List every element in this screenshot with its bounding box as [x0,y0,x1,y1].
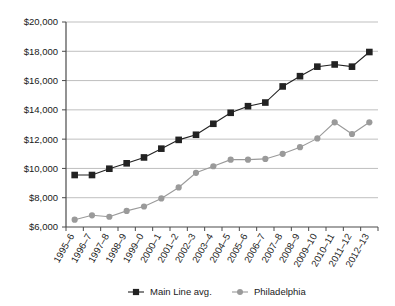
data-point-marker [210,163,216,169]
data-point-marker [193,170,199,176]
data-point-marker [72,217,78,223]
data-point-marker [297,144,303,150]
legend-marker [237,289,243,295]
data-point-marker [227,109,234,116]
y-axis-tick-label: $12,000 [24,134,58,145]
y-axis-tick-label: $14,000 [24,104,58,115]
data-point-marker [193,131,200,138]
legend-item-main-line-avg[interactable]: Main Line avg. [128,286,212,297]
data-point-marker [141,203,147,209]
legend-marker [133,289,139,295]
data-point-marker [314,63,321,70]
data-point-marker [71,172,78,179]
data-point-marker [176,184,182,190]
plot-area [66,22,378,227]
data-point-marker [245,103,252,110]
y-axis-tick-labels: $6,000$8,000$10,000$12,000$14,000$16,000… [24,16,58,232]
chart-container: $6,000$8,000$10,000$12,000$14,000$16,000… [0,0,395,306]
data-point-marker [124,208,130,214]
legend-item-philadelphia[interactable]: Philadelphia [232,286,306,297]
data-point-marker [366,119,372,125]
data-point-marker [158,145,165,152]
data-point-marker [332,119,338,125]
data-point-marker [89,212,95,218]
line-chart: $6,000$8,000$10,000$12,000$14,000$16,000… [0,0,395,306]
data-point-marker [331,61,338,68]
data-point-marker [262,156,268,162]
y-axis-tick-label: $16,000 [24,75,58,86]
y-axis-tick-label: $18,000 [24,46,58,57]
x-axis-ticks [66,227,378,231]
data-point-marker [228,157,234,163]
data-point-marker [106,214,112,220]
data-point-marker [349,131,355,137]
y-axis-tick-label: $20,000 [24,16,58,27]
data-point-marker [141,154,148,161]
data-point-marker [89,172,96,179]
data-point-marker [366,49,373,56]
data-point-marker [245,157,251,163]
data-point-marker [158,195,164,201]
y-axis-tick-label: $10,000 [24,163,58,174]
data-point-marker [262,99,269,106]
data-point-marker [210,120,217,127]
y-axis-tick-label: $6,000 [29,221,58,232]
data-point-marker [123,160,130,167]
x-axis-tick-labels: 1995–61996–71997–81998–91999–02000–12001… [51,232,371,270]
data-point-marker [279,83,286,90]
data-point-marker [175,137,182,144]
data-point-marker [106,165,113,172]
legend-label: Philadelphia [254,286,306,297]
data-point-marker [314,135,320,141]
data-point-marker [280,151,286,157]
chart-legend: Main Line avg.Philadelphia [128,286,306,297]
plot-background [66,22,378,227]
y-axis-tick-label: $8,000 [29,192,58,203]
data-point-marker [297,73,304,80]
data-point-marker [349,63,356,70]
legend-label: Main Line avg. [150,286,212,297]
